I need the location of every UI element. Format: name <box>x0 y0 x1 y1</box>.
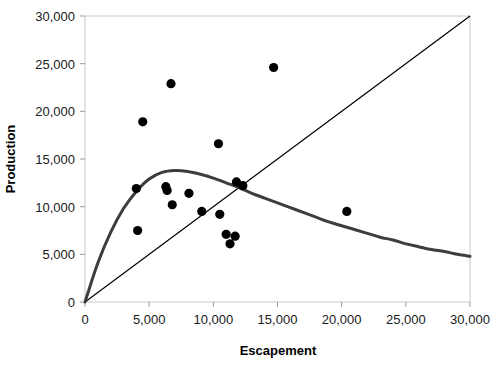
x-tick-label: 0 <box>81 312 88 327</box>
x-tick-label: 25,000 <box>386 312 426 327</box>
data-point <box>222 230 231 239</box>
data-point <box>231 232 240 241</box>
data-point <box>225 239 234 248</box>
y-axis-title: Production <box>3 125 18 194</box>
data-point <box>215 210 224 219</box>
x-axis-title: Escapement <box>240 343 317 358</box>
data-point <box>163 186 172 195</box>
x-tick-label: 5,000 <box>133 312 166 327</box>
chart-canvas: 05,00010,00015,00020,00025,00030,000 05,… <box>0 0 502 368</box>
y-tick-label: 15,000 <box>35 152 75 167</box>
data-point <box>132 184 141 193</box>
data-point <box>197 207 206 216</box>
data-point <box>342 207 351 216</box>
data-point <box>238 181 247 190</box>
y-tick-label: 25,000 <box>35 57 75 72</box>
data-point <box>138 117 147 126</box>
x-tick-label: 10,000 <box>193 312 233 327</box>
x-tick-label: 20,000 <box>322 312 362 327</box>
data-point <box>168 200 177 209</box>
y-tick-label: 30,000 <box>35 9 75 24</box>
x-tick-label: 15,000 <box>258 312 298 327</box>
y-tick-label: 0 <box>68 295 75 310</box>
x-tick-label: 30,000 <box>450 312 490 327</box>
y-tick-label: 20,000 <box>35 104 75 119</box>
y-tick-label: 5,000 <box>42 247 75 262</box>
data-point <box>166 79 175 88</box>
data-point <box>133 226 142 235</box>
data-point <box>214 139 223 148</box>
data-point <box>269 63 278 72</box>
data-point <box>184 189 193 198</box>
chart-background <box>0 0 502 368</box>
production-escapement-chart: 05,00010,00015,00020,00025,00030,000 05,… <box>0 0 502 368</box>
y-tick-label: 10,000 <box>35 200 75 215</box>
